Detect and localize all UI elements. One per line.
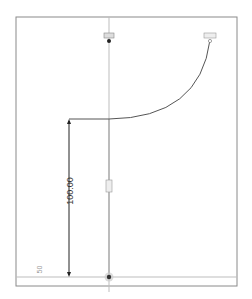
constraint-badge-vertical[interactable] (106, 180, 112, 192)
sketch-canvas[interactable]: 100.00 50 (0, 0, 252, 299)
dimension-arrow-bottom (67, 272, 71, 277)
origin-point[interactable] (107, 275, 111, 279)
dimension-label-bottom[interactable]: 50 (36, 266, 43, 274)
constraint-badge-arc-end[interactable] (204, 33, 216, 38)
dimension-label-vertical[interactable]: 100.00 (65, 177, 75, 205)
dimension-arrow-top (67, 119, 71, 124)
sketch-frame (16, 17, 237, 286)
point-arc-end[interactable] (208, 39, 211, 42)
arc-curve[interactable] (109, 40, 210, 119)
constraint-badge-top[interactable] (104, 33, 114, 38)
point-top[interactable] (107, 39, 111, 43)
